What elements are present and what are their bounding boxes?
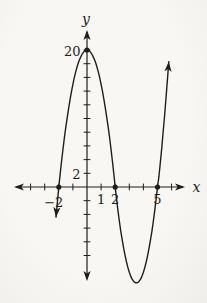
function-curve <box>52 50 172 283</box>
axis-titles: xy <box>81 11 200 195</box>
point-marker <box>113 184 118 189</box>
point-marker <box>56 184 61 189</box>
y-tick-label: 2 <box>72 167 80 182</box>
y-tick-label: 20 <box>64 44 81 59</box>
y-axis <box>83 30 90 281</box>
x-tick-label: −2 <box>44 195 63 210</box>
x-axis-label: x <box>193 179 201 195</box>
tick-marks <box>31 50 172 256</box>
graph-canvas: −2125220xy <box>0 0 207 303</box>
y-axis-label: y <box>81 11 91 27</box>
polynomial-graph-figure: −2125220xy <box>0 0 207 303</box>
tick-labels: −2125220 <box>44 44 161 210</box>
point-marker <box>84 47 89 52</box>
x-tick-label: 1 <box>97 192 105 207</box>
point-marker <box>155 184 160 189</box>
x-tick-label: 2 <box>111 192 119 207</box>
x-tick-label: 5 <box>153 192 161 207</box>
